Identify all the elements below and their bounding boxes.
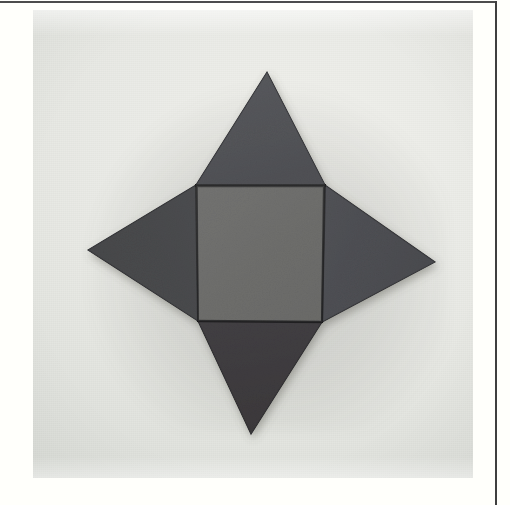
page-top-rule [0,1,497,3]
star-shape-graphic [33,10,473,478]
photo-top-fade [33,10,473,36]
photo-bottom-fade [33,456,473,478]
seam-left [197,186,198,321]
figure-photograph: Net of a square pyramid: a central squar… [33,10,473,478]
seam-bottom [198,321,322,322]
page-right-rule [495,1,497,505]
page-canvas: Net of a square pyramid: a central squar… [0,0,510,505]
